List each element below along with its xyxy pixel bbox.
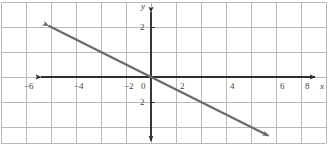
axis-lines [41, 12, 315, 141]
x-tick-label-neg4: −4 [74, 82, 84, 91]
x-tick-label-neg6: −6 [24, 82, 34, 91]
x-axis-name: x [320, 82, 324, 91]
origin-label: 0 [141, 82, 146, 91]
y-tick-label-neg2: 2 [140, 98, 145, 107]
x-tick-label-4: 4 [230, 82, 235, 91]
coordinate-plane-figure: −6 −4 −2 2 4 6 8 0 2 2 x y [0, 0, 332, 149]
grid-lines [1, 2, 326, 143]
x-tick-label-2: 2 [180, 82, 185, 91]
y-tick-label-2: 2 [140, 23, 145, 32]
x-tick-label-6: 6 [280, 82, 285, 91]
y-axis-name: y [141, 2, 145, 11]
x-tick-label-neg2: −2 [124, 82, 134, 91]
graph-canvas [0, 0, 332, 149]
x-tick-label-8: 8 [305, 82, 310, 91]
